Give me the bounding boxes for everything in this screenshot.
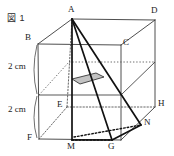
vertex-label-H: H <box>158 99 165 108</box>
figure-container: 図 1 A B C D E F G H M N 2 cm 2 cm <box>0 0 174 156</box>
edge-A-B-line <box>38 19 72 44</box>
vertex-label-A: A <box>68 5 75 14</box>
cross-section-quad <box>72 73 104 84</box>
vertex-label-D: D <box>151 6 158 15</box>
vertex-label-B: B <box>25 33 31 42</box>
vertex-label-M: M <box>67 142 75 151</box>
dimension-label-lower: 2 cm <box>8 105 26 114</box>
dimension-braces <box>34 45 37 138</box>
edge-E-F-line <box>39 107 67 139</box>
vertex-label-N: N <box>144 118 151 127</box>
edge-B-F-line <box>38 44 39 139</box>
vertex-label-G: G <box>108 142 115 151</box>
mid-left-diagonal <box>39 62 69 95</box>
edge-A-D-line <box>72 19 155 20</box>
vertex-label-F: F <box>27 133 32 142</box>
edge-A-N-line <box>72 19 141 125</box>
dimension-label-upper: 2 cm <box>8 62 26 71</box>
brace-upper <box>34 45 37 94</box>
figure-caption: 図 1 <box>7 11 25 24</box>
brace-lower <box>34 96 37 138</box>
vertex-label-C: C <box>123 38 129 47</box>
mid-right-segment <box>121 62 155 95</box>
solid-hidden-base <box>72 125 141 140</box>
vertex-label-E: E <box>57 100 63 109</box>
